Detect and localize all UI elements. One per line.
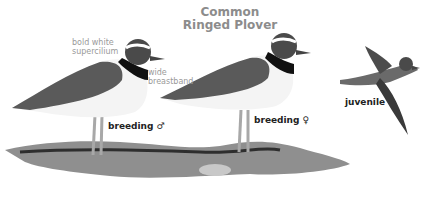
plover-female-figure — [160, 33, 311, 152]
label-breeding-female: breeding ♀ — [254, 115, 309, 125]
plover-juvenile-figure — [340, 46, 420, 135]
plover-male-figure — [12, 39, 165, 155]
label-breeding-male: breeding ♂ — [108, 121, 165, 131]
label-juvenile: juvenile — [345, 97, 385, 107]
annotation-breastband: wide breastband — [148, 68, 193, 86]
ground-mound — [5, 141, 350, 177]
page-title: Common Ringed Plover — [175, 6, 285, 32]
annotation-supercilium: bold white supercilium — [72, 38, 118, 56]
